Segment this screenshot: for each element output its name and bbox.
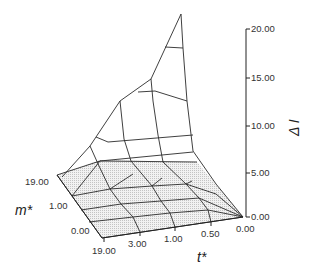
m-tick-1: 1.00 xyxy=(49,200,68,211)
surface-chart: 20.00 15.00 10.00 5.00 0.00 Δ I 19.00 1.… xyxy=(0,0,315,273)
t-tick-1: 1.00 xyxy=(164,233,183,244)
m-tick-19: 19.00 xyxy=(25,176,49,187)
z-tick-20: 20.00 xyxy=(251,23,275,34)
z-tick-10: 10.00 xyxy=(251,120,275,131)
z-axis-title: Δ I xyxy=(286,119,302,137)
t-tick-19: 19.00 xyxy=(92,245,116,256)
z-tick-15: 15.00 xyxy=(251,72,275,83)
z-tick-5: 5.00 xyxy=(251,167,270,178)
t-tick-0.5: 0.50 xyxy=(201,228,220,239)
t-tick-0: 0.00 xyxy=(236,223,255,234)
m-axis-title: m* xyxy=(15,202,33,218)
m-tick-0: 0.00 xyxy=(71,225,90,236)
z-tick-0: 0.00 xyxy=(251,211,270,222)
t-axis-title: t* xyxy=(197,249,207,265)
z-axis: 20.00 15.00 10.00 5.00 0.00 Δ I xyxy=(246,23,302,222)
t-tick-3: 3.00 xyxy=(128,238,147,249)
